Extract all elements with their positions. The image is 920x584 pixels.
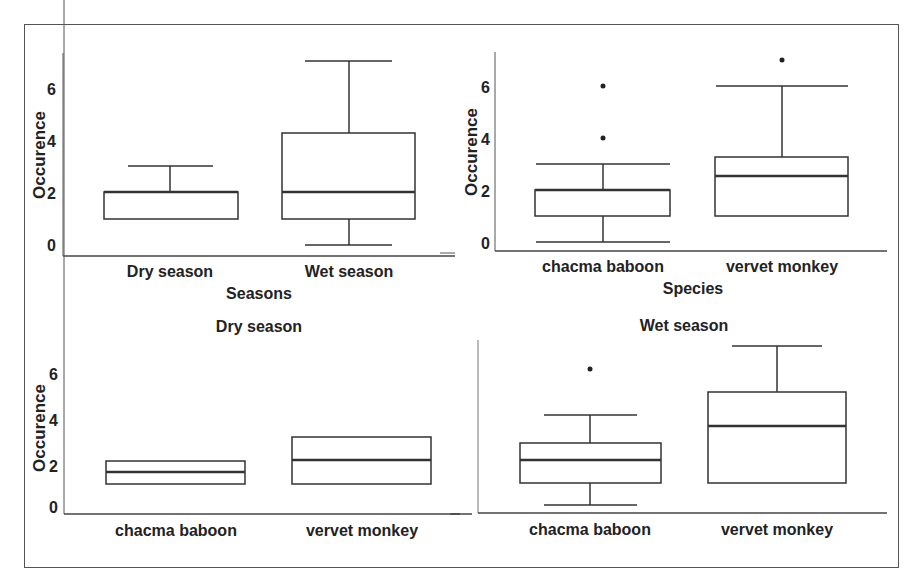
x-axis-label: Seasons [226, 285, 292, 302]
figure: 0 2 4 6 Occurence Dry season Wet season … [0, 0, 920, 584]
outlier-point [588, 367, 593, 372]
y-axis-label: Occurence [30, 384, 49, 472]
ytick-4: 4 [481, 131, 490, 148]
x-category-chacma-baboon: chacma baboon [115, 522, 237, 539]
ytick-2: 2 [481, 183, 490, 200]
figure-frame [25, 25, 899, 568]
ytick-0: 0 [47, 237, 56, 254]
panel-title: Dry season [216, 318, 302, 335]
panel-dry-season [64, 0, 460, 514]
panel-title: Wet season [640, 317, 729, 334]
x-category-vervet-monkey: vervet monkey [306, 522, 418, 539]
panel-seasons [63, 53, 455, 256]
y-axis-label: Occurence [462, 108, 481, 196]
outlier-point [601, 136, 606, 141]
outlier-point [780, 58, 785, 63]
box-wet-chacma-baboon [520, 367, 661, 506]
box-chacma-baboon [535, 84, 670, 243]
box-dry-chacma-baboon [106, 461, 245, 484]
x-category-wet-season: Wet season [305, 263, 394, 280]
y-axis-label: Occurence [30, 111, 49, 199]
ytick-0: 0 [49, 499, 58, 516]
x-category-dry-season: Dry season [127, 263, 213, 280]
panel-dry-season-text: Dry season 0 2 4 6 Occurence chacma babo… [30, 318, 418, 539]
ytick-6: 6 [47, 81, 56, 98]
x-category-vervet-monkey: vervet monkey [726, 258, 838, 275]
x-category-chacma-baboon: chacma baboon [529, 521, 651, 538]
panel-wet-season [450, 340, 887, 514]
ytick-4: 4 [49, 412, 58, 429]
x-category-vervet-monkey: vervet monkey [721, 521, 833, 538]
box-wet-vervet-monkey [708, 346, 846, 483]
ytick-6: 6 [49, 366, 58, 383]
x-category-chacma-baboon: chacma baboon [542, 258, 664, 275]
outlier-point [601, 84, 606, 89]
panel-species [440, 52, 887, 253]
box-vervet-monkey [715, 58, 848, 217]
ytick-2: 2 [49, 458, 58, 475]
box-dry-vervet-monkey [292, 437, 431, 484]
box-wet-season [282, 61, 415, 245]
ytick-6: 6 [481, 79, 490, 96]
ytick-0: 0 [481, 235, 490, 252]
x-axis-label: Species [663, 280, 724, 297]
box-dry-season [104, 166, 238, 219]
